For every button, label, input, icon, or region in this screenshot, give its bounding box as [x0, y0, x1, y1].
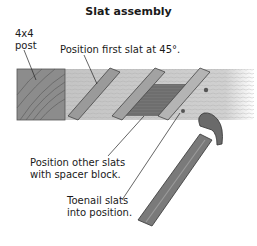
label-toenail-line2: into position. — [67, 207, 132, 219]
label-post-line1: 4x4 — [15, 28, 37, 40]
label-toenail: Toenail slats into position. — [67, 195, 132, 219]
label-other-slats-line2: with spacer block. — [30, 169, 125, 181]
label-first-slat: Position first slat at 45°. — [60, 44, 180, 56]
leader-other-slats — [108, 116, 144, 156]
nail-icon — [181, 109, 185, 113]
label-toenail-line1: Toenail slats — [67, 195, 132, 207]
label-post-line2: post — [15, 40, 37, 52]
post-4x4 — [17, 69, 65, 120]
hammer — [138, 113, 223, 226]
nail-icon — [204, 88, 208, 92]
label-post: 4x4 post — [15, 28, 37, 52]
label-other-slats-line1: Position other slats — [30, 157, 125, 169]
label-other-slats: Position other slats with spacer block. — [30, 157, 125, 181]
